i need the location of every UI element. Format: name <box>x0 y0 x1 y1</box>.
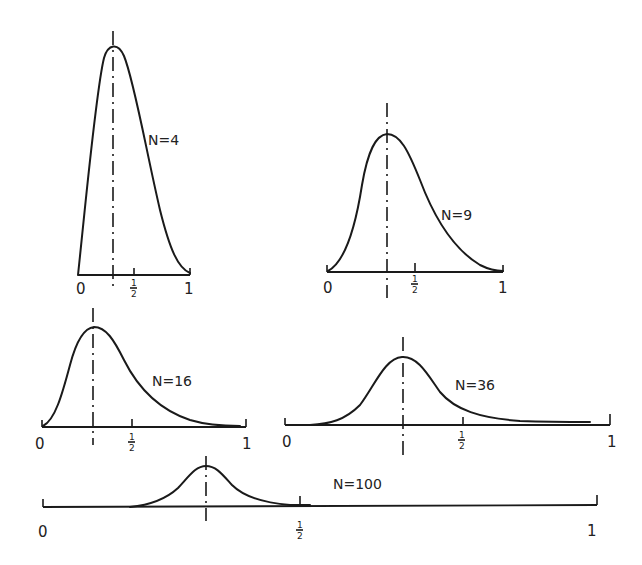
panel-n100: N=100 0 1 2 1 <box>38 456 597 541</box>
axis-label-0: 0 <box>323 279 333 297</box>
axis-label-0: 0 <box>282 433 292 451</box>
axis-label-half-den: 2 <box>297 531 303 541</box>
density-curve <box>78 46 190 275</box>
sampling-distribution-diagram: N=4 0 1 2 1 N=9 0 1 2 1 N=16 0 1 2 1 <box>0 0 642 565</box>
axis-label-half-den: 2 <box>131 289 137 299</box>
axis-label-0: 0 <box>76 280 86 298</box>
axis-label-half-num: 1 <box>297 520 303 530</box>
axis-label-0: 0 <box>38 523 48 541</box>
density-curve <box>43 327 240 426</box>
axis-label-half-den: 2 <box>412 285 418 295</box>
axis-label-1: 1 <box>587 522 597 540</box>
axis-label-0: 0 <box>35 435 45 453</box>
axis-label-half-den: 2 <box>459 441 465 451</box>
axis-label-half-num: 1 <box>412 274 418 284</box>
panel-n16: N=16 0 1 2 1 <box>35 308 252 453</box>
axis-label-half-den: 2 <box>129 443 135 453</box>
axis-label-1: 1 <box>607 433 617 451</box>
axis-label-half-num: 1 <box>129 432 135 442</box>
density-curve <box>310 357 590 425</box>
panel-n9: N=9 0 1 2 1 <box>323 103 508 298</box>
n-label: N=9 <box>441 207 472 223</box>
axis-label-1: 1 <box>242 435 252 453</box>
axis-label-1: 1 <box>184 280 194 298</box>
baseline <box>43 505 597 507</box>
n-label: N=100 <box>333 476 382 492</box>
axis-label-1: 1 <box>498 279 508 297</box>
panel-n4: N=4 0 1 2 1 <box>76 31 194 299</box>
n-label: N=36 <box>455 377 495 393</box>
panel-n36: N=36 0 1 2 1 <box>282 337 617 460</box>
density-curve <box>130 466 310 507</box>
n-label: N=16 <box>152 373 192 389</box>
axis-label-half-num: 1 <box>459 430 465 440</box>
axis-label-half-num: 1 <box>131 278 137 288</box>
density-curve <box>328 134 503 271</box>
n-label: N=4 <box>148 132 179 148</box>
